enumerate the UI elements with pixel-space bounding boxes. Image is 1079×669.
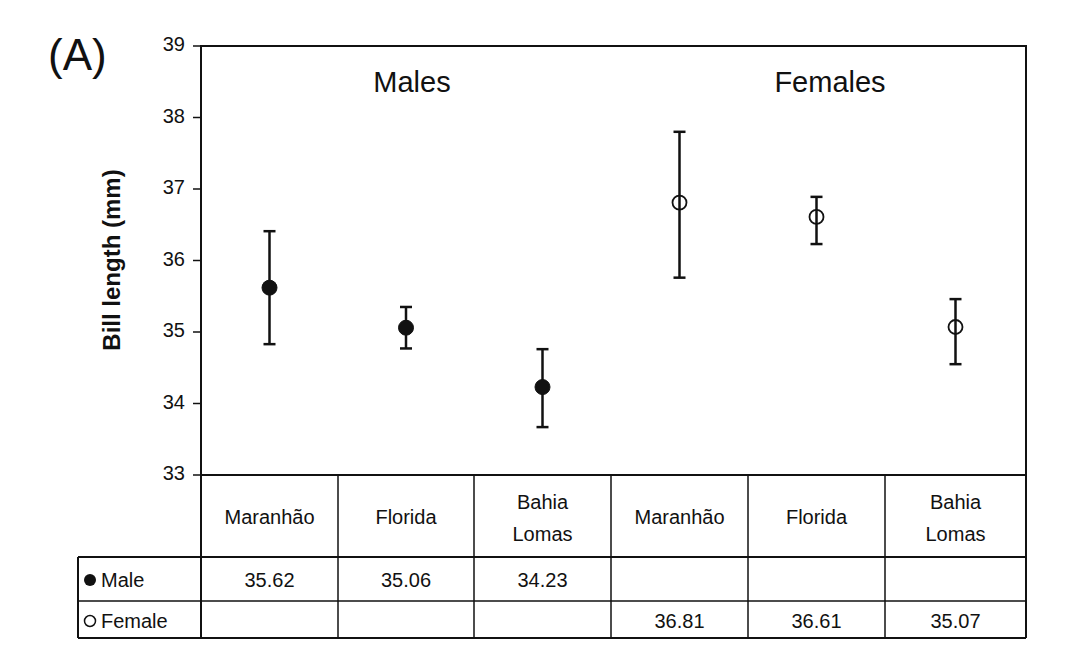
data-point-male xyxy=(399,320,414,335)
table-header-cell: Bahia xyxy=(517,491,569,513)
plot-frame xyxy=(201,46,1026,475)
legend-marker-male-icon xyxy=(84,574,96,586)
table-header-cell: Maranhão xyxy=(224,506,314,528)
table-value-cell: 35.62 xyxy=(244,569,294,591)
table-value-cell: 34.23 xyxy=(517,569,567,591)
table-header-cell: Bahia xyxy=(930,491,982,513)
table-value-cell: 36.81 xyxy=(654,610,704,632)
table-header-cell: Maranhão xyxy=(634,506,724,528)
data-point-male xyxy=(262,280,277,295)
table-value-cell: 35.07 xyxy=(930,610,980,632)
table-value-cell: 36.61 xyxy=(791,610,841,632)
table-value-cell: 35.06 xyxy=(381,569,431,591)
table-header-cell: Florida xyxy=(786,506,848,528)
data-point-male xyxy=(535,380,550,395)
plot-area: MaranhãoFloridaBahiaLomasMaranhãoFlorida… xyxy=(0,0,1079,669)
legend-marker-female-icon xyxy=(85,616,96,627)
table-header-cell: Lomas xyxy=(925,523,985,545)
legend-label-male: Male xyxy=(101,569,144,591)
table-header-cell: Florida xyxy=(375,506,437,528)
legend-label-female: Female xyxy=(101,610,168,632)
table-header-cell: Lomas xyxy=(512,523,572,545)
